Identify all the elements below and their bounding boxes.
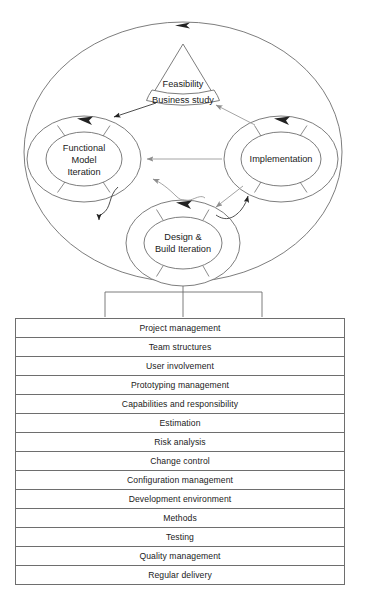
functional-model-label: Functional xyxy=(63,143,105,153)
practice-cell: User involvement xyxy=(16,357,345,376)
practice-cell: Change control xyxy=(16,452,345,471)
table-row: Regular delivery xyxy=(16,566,345,585)
table-row: Change control xyxy=(16,452,345,471)
connector-implementation-to-design-build xyxy=(216,186,243,207)
practice-cell: Methods xyxy=(16,509,345,528)
design-build-label: Build Iteration xyxy=(155,244,211,254)
business-study-label: Business study xyxy=(152,95,214,105)
practice-cell: Prototyping management xyxy=(16,376,345,395)
practice-cell: Project management xyxy=(16,319,345,338)
table-row: Configuration management xyxy=(16,471,345,490)
practice-cell: Risk analysis xyxy=(16,433,345,452)
design-build-inner-ring xyxy=(144,217,222,269)
table-row: User involvement xyxy=(16,357,345,376)
practice-cell: Testing xyxy=(16,528,345,547)
practices-table-body: Project management Team structures User … xyxy=(16,319,345,585)
connector-design-build-to-functional-model-region xyxy=(153,179,205,201)
practice-cell: Development environment xyxy=(16,490,345,509)
outer-cycle-arrowhead-icon xyxy=(175,23,190,29)
table-row: Capabilities and responsibility xyxy=(16,395,345,414)
design-build-label: Design & xyxy=(164,232,201,242)
table-row: Project management xyxy=(16,319,345,338)
implementation-label: Implementation xyxy=(250,154,313,164)
functional-model-label: Model xyxy=(71,155,96,165)
table-row: Methods xyxy=(16,509,345,528)
feasibility-phase: Feasibility Business study xyxy=(147,44,220,105)
table-row: Quality management xyxy=(16,547,345,566)
dsdm-lifecycle-diagram: Feasibility Business study Functional Mo… xyxy=(0,0,365,318)
implementation-phase: Implementation xyxy=(224,116,338,202)
functional-model-label: Iteration xyxy=(67,167,100,177)
table-row: Risk analysis xyxy=(16,433,345,452)
practice-cell: Capabilities and responsibility xyxy=(16,395,345,414)
table-row: Prototyping management xyxy=(16,376,345,395)
practices-table-wrap: Project management Team structures User … xyxy=(15,318,345,585)
practice-cell: Regular delivery xyxy=(16,566,345,585)
feasibility-triangle xyxy=(151,44,215,97)
table-row: Testing xyxy=(16,528,345,547)
practice-cell: Estimation xyxy=(16,414,345,433)
support-pedestal xyxy=(105,286,262,317)
connector-business-study-to-functional-model xyxy=(114,103,156,117)
management-practices-table: Project management Team structures User … xyxy=(15,318,345,585)
practice-cell: Team structures xyxy=(16,338,345,357)
table-row: Team structures xyxy=(16,338,345,357)
table-row: Estimation xyxy=(16,414,345,433)
table-row: Development environment xyxy=(16,490,345,509)
practice-cell: Configuration management xyxy=(16,471,345,490)
functional-model-iteration-phase: Functional Model Iteration xyxy=(27,116,141,202)
connector-implementation-to-business-study xyxy=(216,105,255,125)
design-build-iteration-phase: Design & Build Iteration xyxy=(126,200,240,286)
figure-root: Feasibility Business study Functional Mo… xyxy=(0,0,365,598)
feasibility-label: Feasibility xyxy=(163,79,204,89)
practice-cell: Quality management xyxy=(16,547,345,566)
